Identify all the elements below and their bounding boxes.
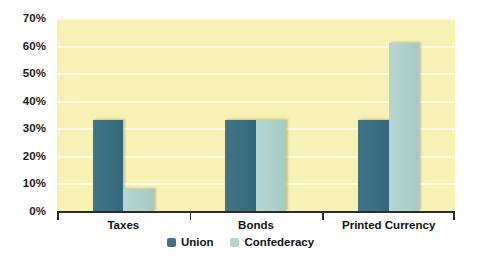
category-labels: TaxesBondsPrinted Currency [57, 219, 455, 235]
legend-item-confederacy: Confederacy [230, 236, 314, 248]
legend-swatch-icon [230, 238, 239, 247]
bar-union-bonds [225, 120, 256, 211]
bars-layer [57, 18, 455, 211]
legend-label: Union [181, 236, 214, 248]
bar-group [93, 18, 154, 211]
y-axis-tick-label: 30% [23, 122, 46, 134]
y-axis-tick-label: 70% [23, 12, 46, 24]
plot-area [57, 18, 455, 211]
bar-union-taxes [93, 120, 124, 211]
bar-confederacy-taxes [123, 189, 154, 211]
y-axis-tick-label: 50% [23, 67, 46, 79]
category-label-taxes: Taxes [107, 219, 139, 231]
legend-swatch-icon [167, 238, 176, 247]
legend-label: Confederacy [244, 236, 314, 248]
y-axis: 0%10%20%30%40%50%60%70% [0, 18, 52, 211]
bar-confederacy-printed-currency [389, 43, 420, 211]
legend-item-union: Union [167, 236, 214, 248]
chart-legend: UnionConfederacy [0, 236, 481, 248]
y-axis-tick-label: 60% [23, 40, 46, 52]
y-axis-tick-label: 40% [23, 95, 46, 107]
bar-group [358, 18, 419, 211]
bar-union-printed-currency [358, 120, 389, 211]
bar-chart-figure: 0%10%20%30%40%50%60%70% TaxesBondsPrinte… [0, 0, 481, 259]
category-label-bonds: Bonds [238, 219, 274, 231]
bar-group [225, 18, 286, 211]
bar-confederacy-bonds [256, 120, 287, 211]
y-axis-tick-label: 20% [23, 150, 46, 162]
category-label-printed-currency: Printed Currency [342, 219, 435, 231]
y-axis-tick-label: 0% [29, 205, 46, 217]
y-axis-tick-label: 10% [23, 177, 46, 189]
